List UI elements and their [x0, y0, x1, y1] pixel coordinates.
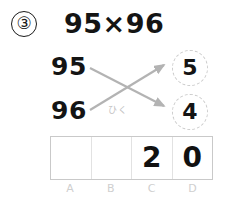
- answer-cell-b[interactable]: [92, 137, 133, 179]
- problem-expression: 95×96: [64, 9, 164, 39]
- answer-table: 2 0: [50, 136, 213, 180]
- result-bubble-top: 5: [172, 50, 208, 86]
- result-bubble-bottom: 4: [172, 94, 208, 130]
- answer-label-c: C: [132, 182, 173, 198]
- answer-label-d: D: [172, 182, 213, 198]
- answer-cell-c[interactable]: 2: [132, 137, 173, 179]
- answer-label-a: A: [50, 182, 91, 198]
- problem-number-badge: ③: [11, 11, 37, 37]
- answer-cell-a[interactable]: [51, 137, 92, 179]
- subtract-label: ひく: [108, 105, 128, 116]
- answer-cell-d[interactable]: 0: [173, 137, 213, 179]
- arrow-bottom-to-top: [90, 65, 164, 110]
- working-area: 95 96 ひく 5 4: [0, 46, 231, 132]
- answer-column-labels: A B C D: [50, 182, 213, 198]
- problem-header: ③ 95×96: [0, 0, 231, 46]
- answer-label-b: B: [91, 182, 132, 198]
